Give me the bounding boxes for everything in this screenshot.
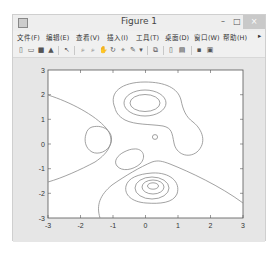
axes-box xyxy=(48,70,243,218)
svg-text:-2: -2 xyxy=(39,190,45,197)
svg-text:3: 3 xyxy=(41,67,45,74)
svg-text:-1: -1 xyxy=(110,222,116,229)
contour-plot[interactable]: -3 -2 -1 0 1 2 3 -3 -2 -1 0 1 2 3 xyxy=(0,0,276,253)
svg-text:1: 1 xyxy=(176,222,180,229)
svg-text:3: 3 xyxy=(241,222,245,229)
x-tick-labels: -3 -2 -1 0 1 2 3 xyxy=(45,222,245,229)
svg-text:2: 2 xyxy=(41,91,45,98)
svg-text:-3: -3 xyxy=(39,215,45,222)
svg-text:-3: -3 xyxy=(45,222,51,229)
svg-text:-1: -1 xyxy=(39,165,45,172)
svg-text:0: 0 xyxy=(144,222,148,229)
y-tick-labels: -3 -2 -1 0 1 2 3 xyxy=(39,67,45,222)
svg-text:2: 2 xyxy=(209,222,213,229)
svg-text:0: 0 xyxy=(41,141,45,148)
svg-text:-2: -2 xyxy=(77,222,83,229)
svg-text:1: 1 xyxy=(41,116,45,123)
